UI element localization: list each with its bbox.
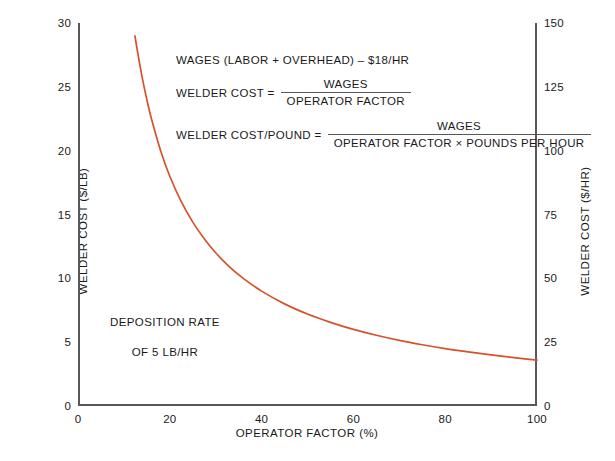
y-axis-right-tick-label: 50 bbox=[544, 272, 557, 284]
x-axis-tick-label: 60 bbox=[347, 413, 360, 425]
formula-welder-cost-row: WELDER COST = WAGES OPERATOR FACTOR bbox=[176, 77, 591, 108]
welder-cost-per-pound-numerator: WAGES bbox=[427, 119, 491, 134]
y-axis-left-tick-label: 5 bbox=[64, 336, 71, 348]
y-axis-left-tick-label: 30 bbox=[58, 17, 71, 29]
welder-cost-label: WELDER COST = bbox=[176, 87, 281, 99]
welder-cost-per-pound-denominator: OPERATOR FACTOR × POUNDS PER HOUR bbox=[328, 134, 591, 150]
y-axis-left-tick-label: 25 bbox=[58, 81, 71, 93]
formula-welder-cost-per-pound-row: WELDER COST/POUND = WAGES OPERATOR FACTO… bbox=[176, 119, 591, 150]
x-axis-tick-label: 20 bbox=[163, 413, 176, 425]
formula-wages-row: WAGES (LABOR + OVERHEAD) – $18/HR bbox=[176, 54, 591, 66]
wages-definition-text: WAGES (LABOR + OVERHEAD) – $18/HR bbox=[176, 54, 409, 66]
deposition-rate-line-2: OF 5 LB/HR bbox=[110, 345, 220, 360]
y-axis-right-tick-label: 150 bbox=[544, 17, 564, 29]
formula-block: WAGES (LABOR + OVERHEAD) – $18/HR WELDER… bbox=[176, 54, 591, 161]
y-axis-right-title: WELDER COST ($/HR) bbox=[579, 166, 591, 295]
welder-cost-denominator: OPERATOR FACTOR bbox=[281, 92, 411, 108]
chart-figure: WELDER COST ($/LB) WELDER COST ($/HR) OP… bbox=[0, 0, 615, 461]
x-axis-title: OPERATOR FACTOR (%) bbox=[236, 427, 379, 439]
welder-cost-per-pound-fraction: WAGES OPERATOR FACTOR × POUNDS PER HOUR bbox=[328, 119, 591, 150]
y-axis-left-tick-label: 0 bbox=[64, 400, 71, 412]
y-axis-left-tick-label: 10 bbox=[58, 272, 71, 284]
welder-cost-per-pound-label: WELDER COST/POUND = bbox=[176, 129, 328, 141]
welder-cost-fraction: WAGES OPERATOR FACTOR bbox=[281, 77, 411, 108]
x-axis-tick-label: 80 bbox=[439, 413, 452, 425]
y-axis-right-tick-label: 0 bbox=[544, 400, 551, 412]
y-axis-right-tick-label: 75 bbox=[544, 209, 557, 221]
y-axis-right-tick-label: 25 bbox=[544, 336, 557, 348]
y-axis-left-tick-label: 15 bbox=[58, 209, 71, 221]
x-axis-tick-label: 0 bbox=[75, 413, 82, 425]
deposition-rate-line-1: DEPOSITION RATE bbox=[110, 315, 220, 330]
x-axis-tick-label: 100 bbox=[527, 413, 547, 425]
welder-cost-numerator: WAGES bbox=[314, 77, 378, 92]
x-axis-tick-label: 40 bbox=[255, 413, 268, 425]
deposition-rate-note: DEPOSITION RATE OF 5 LB/HR bbox=[110, 300, 220, 375]
y-axis-left-tick-label: 20 bbox=[58, 145, 71, 157]
